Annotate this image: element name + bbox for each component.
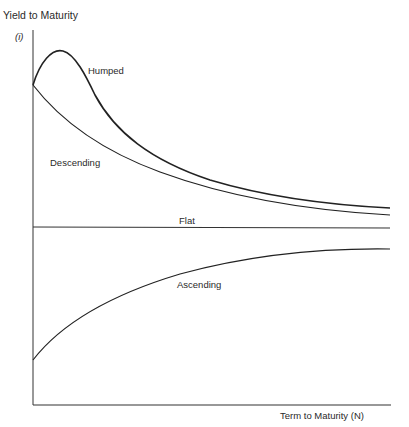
ascending-curve — [33, 249, 390, 360]
humped-label: Humped — [88, 65, 124, 76]
descending-curve — [33, 85, 390, 215]
y-axis-title: Yield to Maturity — [3, 9, 78, 21]
humped-curve — [33, 51, 390, 208]
flat-label: Flat — [179, 215, 195, 226]
flat-line — [33, 227, 390, 228]
x-axis-title: Term to Maturity (N) — [280, 410, 364, 421]
ascending-label: Ascending — [177, 279, 221, 290]
descending-label: Descending — [50, 157, 100, 168]
yield-curve-chart — [0, 0, 409, 427]
y-axis-symbol: (i) — [15, 31, 23, 42]
